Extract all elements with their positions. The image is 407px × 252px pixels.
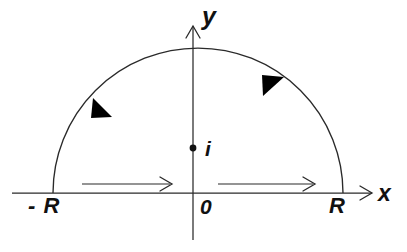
arc-arrow-left-head-icon (91, 98, 112, 118)
right-endpoint-label: R (329, 195, 345, 217)
arc-arrow-right-head-icon (262, 75, 284, 96)
pole-label-i: i (205, 138, 211, 159)
x-axis-label: x (378, 182, 391, 205)
pole-point-dot (190, 145, 197, 152)
semicircle-arc (53, 48, 343, 193)
origin-label: 0 (200, 196, 212, 217)
y-axis-label: y (202, 4, 216, 29)
left-endpoint-label: - R (28, 195, 60, 217)
contour-diagram-figure: y x i 0 - R R (0, 0, 407, 252)
